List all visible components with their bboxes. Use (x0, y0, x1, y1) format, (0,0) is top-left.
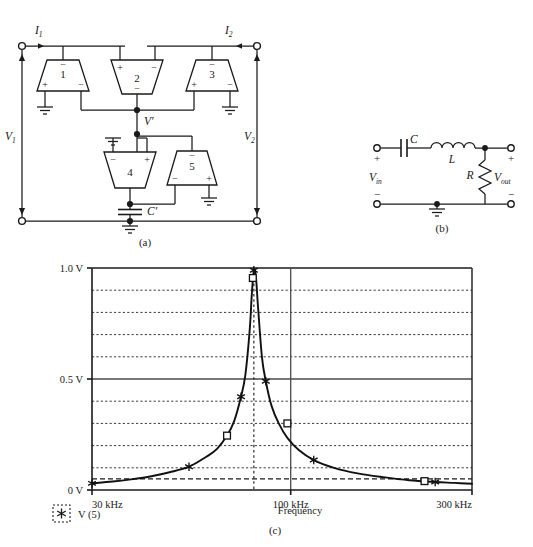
star-marker (250, 266, 258, 274)
opamp-5-sign-bl: − (172, 173, 178, 184)
chart-series-line (92, 269, 472, 484)
terminal-in-minus (374, 201, 380, 207)
opamp-5-number: 5 (189, 160, 195, 172)
opamp-2-sign-tr: − (151, 62, 157, 73)
opamp-1-sign-top: − (60, 59, 66, 70)
star-marker-icon (57, 509, 66, 519)
capacitor-cprime (118, 210, 142, 215)
label-cprime: C′ (147, 205, 158, 217)
opamp-2-sign-bottom: − (134, 83, 140, 94)
y-tick-label: 0.5 V (60, 374, 84, 385)
panel-b-circuit: C L R + − + − Vin Vout (365, 122, 525, 227)
node-vprime-upper (134, 107, 140, 113)
y-tick-label: 0 V (68, 485, 84, 496)
capacitor-c (401, 139, 407, 157)
y-tick-label: 1.0 V (60, 263, 84, 274)
arrow-i1 (38, 43, 44, 49)
arrow-v2-down (254, 208, 260, 215)
label-i2: I2 (224, 24, 233, 39)
inductor-l (431, 143, 475, 149)
sign-in-minus: − (374, 188, 380, 200)
star-marker (262, 377, 270, 385)
panel-a-caption: (a) (110, 236, 180, 248)
opamp-5-sign-top: − (189, 150, 195, 161)
opamp-5-sign-br: + (206, 173, 212, 184)
label-c: C (410, 133, 418, 145)
ground-symbol-3 (222, 107, 238, 114)
arrow-v2-up (254, 54, 260, 61)
chart-xlabel: Frequency (240, 505, 360, 516)
square-marker (421, 478, 428, 485)
terminal-right-top (254, 43, 261, 50)
opamp-3-sign-bl: + (191, 79, 197, 90)
opamp-3-sign-br: − (227, 79, 233, 90)
label-vprime: V′ (144, 115, 154, 127)
chart-legend[interactable]: V (5) (52, 503, 222, 525)
legend-label: V (5) (78, 509, 101, 521)
opamp-4: 4 − + (104, 138, 156, 204)
arrow-v1-up (19, 54, 25, 61)
chart-ticks (87, 268, 472, 495)
label-l: L (448, 153, 455, 165)
opamp-3-sign-top: − (209, 59, 215, 70)
star-marker (237, 393, 245, 401)
sign-out-minus: − (508, 188, 514, 200)
arrow-i2 (236, 43, 242, 49)
terminal-in-plus (374, 145, 380, 151)
label-v2: V2 (244, 130, 255, 145)
square-marker (249, 275, 256, 282)
star-marker (310, 456, 318, 464)
panel-c-chart: 0 V0.5 V1.0 V30 kHz100 kHz300 kHz (20, 256, 520, 544)
terminal-left-top (19, 43, 26, 50)
opamp-4-sign-tr: + (144, 154, 150, 165)
resistor-r (479, 160, 491, 194)
opamp-2-sign-tl: + (117, 62, 123, 73)
label-v1: V1 (5, 130, 16, 145)
arrow-v1-down (19, 208, 25, 215)
opamp-1-sign-bl: + (42, 79, 48, 90)
chart-markers (88, 266, 439, 488)
square-marker (284, 420, 291, 427)
label-r: R (465, 169, 473, 181)
ground-symbol-1 (37, 107, 53, 114)
sign-out-plus: + (508, 152, 514, 164)
opamp-4-sign-tl: − (110, 154, 116, 165)
star-marker (185, 462, 193, 470)
ground-symbol-main (122, 221, 138, 233)
panel-c-caption: (c) (245, 524, 305, 536)
x-tick-label: 300 kHz (436, 499, 472, 510)
label-vin: Vin (369, 171, 382, 186)
square-marker (224, 432, 231, 439)
panel-a-circuit: 1 − + − 2 + − − 3 − + − V′ (0, 12, 290, 237)
ground-symbol-b (429, 204, 445, 216)
ground-symbol-5 (201, 198, 217, 205)
terminal-out-minus (508, 201, 514, 207)
opamp-1-sign-br: − (78, 79, 84, 90)
terminal-out-plus (508, 145, 514, 151)
label-i1: I1 (34, 24, 43, 39)
sign-in-plus: + (374, 152, 380, 164)
terminal-right-bottom (254, 218, 261, 225)
chart-gridlines (92, 268, 472, 490)
opamp-2: 2 + − − (111, 46, 163, 134)
terminal-left-bottom (19, 218, 26, 225)
opamp-4-number: 4 (127, 166, 133, 178)
panel-b-caption: (b) (412, 222, 472, 234)
label-vout: Vout (494, 171, 512, 186)
